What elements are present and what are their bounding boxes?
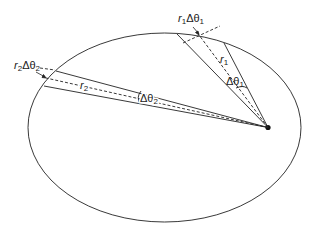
- arc2-label: r2Δθ2: [14, 59, 41, 73]
- angle2-label: Δθ2: [140, 92, 158, 106]
- orbit-diagram: r1Δθ1 r1 Δθ1 r2Δθ2 r2 Δθ2: [0, 0, 316, 236]
- orbit-ellipse: [28, 33, 301, 222]
- wedge-1: [177, 26, 268, 128]
- arc1-arrow: [193, 27, 199, 35]
- arc1-label: r1Δθ1: [178, 12, 205, 26]
- radius2-label: r2: [80, 79, 89, 93]
- radius1-label: r1: [220, 53, 229, 67]
